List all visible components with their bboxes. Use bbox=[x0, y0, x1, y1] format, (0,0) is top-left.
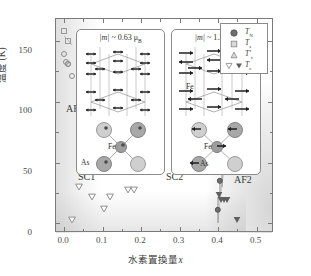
x-tick-label-0.1: 0.1 bbox=[96, 235, 107, 245]
y-tick-label-50: 50 bbox=[23, 166, 32, 176]
data-point-tn-4 bbox=[69, 73, 75, 79]
legend-item-ts-prime: T's bbox=[223, 49, 265, 60]
x-tick-label-0.5: 0.5 bbox=[250, 235, 261, 245]
y-axis-title: 温度 (K) bbox=[0, 5, 8, 125]
data-point-tc-filled-3 bbox=[223, 197, 231, 204]
data-point-tc-open-3 bbox=[100, 206, 108, 213]
triangle-down-pair-icon bbox=[223, 62, 245, 70]
inset-right-title-prefix: |m| ~ bbox=[195, 33, 214, 42]
x-axis-title: 水素置換量x bbox=[0, 252, 311, 266]
phase-label-af2: AF2 bbox=[234, 174, 252, 185]
legend-item-tn: TN bbox=[223, 27, 265, 38]
legend-sub-tc: c bbox=[249, 65, 251, 70]
x-tick-label-0.3: 0.3 bbox=[173, 235, 184, 245]
open-triangle-up-icon bbox=[223, 51, 245, 59]
y-axis-title-unit: (K) bbox=[0, 47, 7, 60]
data-point-ts-1 bbox=[65, 38, 71, 44]
phase-diagram-figure: 温度 (K) 0 50 100 150 0.0 0.1 0.2 0.3 0.4 … bbox=[0, 0, 311, 276]
x-axis-title-jp: 水素置換量 bbox=[128, 255, 178, 265]
plot-area: AF1 AF2 SC1 SC2 |m| ~ 0.63 μB bbox=[55, 18, 273, 232]
inset-panel-left: |m| ~ 0.63 μB bbox=[76, 29, 165, 175]
data-point-tn-0 bbox=[61, 51, 67, 57]
x-tick-label-0.0: 0.0 bbox=[57, 235, 68, 245]
inset-left-unit-sub: B bbox=[138, 38, 142, 44]
data-point-tc-open-1 bbox=[75, 184, 83, 191]
y-tick-label-0: 0 bbox=[28, 227, 33, 237]
inset-left-crystal-structure bbox=[77, 30, 165, 175]
legend-sub-ts-prime: s bbox=[251, 54, 253, 59]
y-tick-label-150: 150 bbox=[19, 45, 33, 55]
filled-circle-icon bbox=[223, 29, 245, 37]
x-tick-label-0.4: 0.4 bbox=[211, 235, 222, 245]
legend-item-ts: Ts bbox=[223, 38, 265, 49]
data-point-tn-3 bbox=[65, 61, 71, 67]
inset-left-label-as: As bbox=[81, 158, 89, 167]
data-point-tc-open-6 bbox=[130, 186, 138, 193]
data-point-tc-open-4 bbox=[106, 193, 114, 200]
y-axis-title-jp: 温度 bbox=[0, 63, 7, 83]
data-point-tc-open-0 bbox=[68, 217, 76, 224]
legend-sub-tn: N bbox=[249, 32, 253, 37]
inset-right-label-as: As bbox=[200, 159, 208, 168]
x-axis-title-var: x bbox=[178, 255, 182, 265]
inset-left-magnitude: 0.63 bbox=[118, 33, 132, 42]
data-point-tc-open-2 bbox=[88, 194, 96, 201]
inset-right-label-fe: Fe bbox=[204, 142, 212, 151]
legend: TN Ts T's Tc bbox=[220, 23, 268, 74]
y-tick-label-100: 100 bbox=[19, 105, 33, 115]
data-point-tc-filled-4 bbox=[233, 217, 241, 224]
inset-left-label-fe: Fe bbox=[108, 142, 116, 151]
inset-left-title: |m| ~ 0.63 μB bbox=[77, 33, 164, 44]
inset-right-label-fe-top: Fe bbox=[186, 82, 194, 91]
legend-sub-ts: s bbox=[249, 43, 251, 48]
legend-item-tc: Tc bbox=[223, 60, 265, 71]
x-tick-label-0.2: 0.2 bbox=[134, 235, 145, 245]
data-point-ts-0 bbox=[61, 28, 67, 34]
open-square-icon bbox=[223, 40, 245, 48]
inset-left-title-prefix: |m| ~ bbox=[99, 33, 118, 42]
